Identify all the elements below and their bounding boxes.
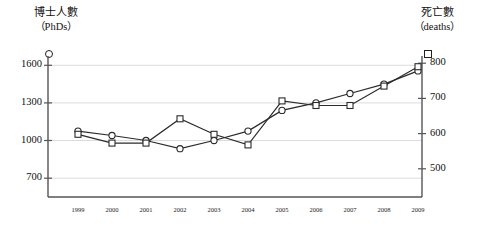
- right-tick-label-800: 800: [430, 56, 470, 67]
- year-label-2005: 2005: [267, 206, 297, 213]
- right-tick-label-600: 600: [430, 127, 470, 138]
- data-point-square-2007: [347, 103, 353, 109]
- series-markers: [75, 64, 421, 152]
- data-point-circle-2005: [279, 107, 285, 113]
- left-tick-label-700: 700: [4, 171, 42, 182]
- year-label-2006: 2006: [301, 206, 331, 213]
- data-point-square-2009: [415, 64, 421, 70]
- data-point-square-2003: [211, 131, 217, 137]
- data-point-square-1999: [75, 131, 81, 137]
- year-label-2003: 2003: [199, 206, 229, 213]
- data-point-square-2008: [381, 83, 387, 89]
- data-point-circle-2000: [109, 132, 115, 138]
- axis-lines: [48, 56, 422, 197]
- year-label-2008: 2008: [369, 206, 399, 213]
- year-label-2007: 2007: [335, 206, 365, 213]
- year-label-1999: 1999: [63, 206, 93, 213]
- left-tick-label-1000: 1000: [4, 134, 42, 145]
- right-tick-label-500: 500: [430, 162, 470, 173]
- axis-ticks: [44, 63, 426, 178]
- data-point-square-2000: [109, 140, 115, 146]
- right-tick-label-700: 700: [430, 91, 470, 102]
- left-tick-label-1600: 1600: [4, 58, 42, 69]
- data-point-square-2004: [245, 142, 251, 148]
- data-point-square-2001: [143, 140, 149, 146]
- year-label-2009: 2009: [403, 206, 433, 213]
- year-label-2001: 2001: [131, 206, 161, 213]
- data-point-circle-2003: [211, 137, 217, 143]
- year-label-2000: 2000: [97, 206, 127, 213]
- chart-container: 博士人數 （PhDs） 死亡數 （deaths） 700100013001600…: [0, 0, 478, 239]
- data-point-square-2006: [313, 103, 319, 109]
- year-label-2004: 2004: [233, 206, 263, 213]
- data-point-circle-2004: [245, 128, 251, 134]
- data-point-circle-2007: [347, 90, 353, 96]
- year-label-2002: 2002: [165, 206, 195, 213]
- left-tick-label-1300: 1300: [4, 96, 42, 107]
- data-point-circle-2002: [177, 146, 183, 152]
- gridlines: [48, 65, 422, 178]
- data-point-square-2005: [279, 98, 285, 104]
- series-lines: [78, 67, 418, 149]
- plot-area: [0, 0, 478, 239]
- data-point-square-2002: [177, 116, 183, 122]
